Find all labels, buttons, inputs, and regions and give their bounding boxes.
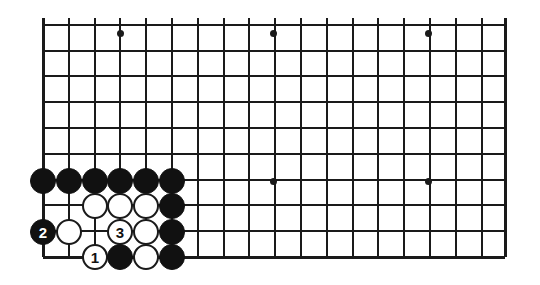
stone-white[interactable] — [56, 219, 82, 245]
stone-black[interactable] — [30, 168, 56, 194]
stone-black[interactable] — [159, 219, 185, 245]
stone-black-move-2[interactable]: 2 — [30, 219, 56, 245]
stone-white-move-1[interactable]: 1 — [82, 244, 108, 270]
stone-black[interactable] — [107, 244, 133, 270]
grid-line-vertical — [223, 18, 225, 257]
stone-white-move-3[interactable]: 3 — [107, 219, 133, 245]
grid-line-vertical — [274, 18, 276, 257]
board-edge-line-vertical — [504, 18, 507, 257]
stone-white[interactable] — [133, 193, 159, 219]
goban-grid: 231 — [0, 0, 540, 285]
stone-white[interactable] — [133, 244, 159, 270]
star-point — [270, 178, 277, 185]
go-board-diagram: 231 — [0, 0, 540, 285]
grid-line-vertical — [403, 18, 405, 257]
move-number-label: 1 — [91, 249, 99, 264]
stone-black[interactable] — [133, 168, 159, 194]
grid-line-vertical — [197, 18, 199, 257]
stone-white[interactable] — [82, 193, 108, 219]
grid-line-vertical — [377, 18, 379, 257]
grid-line-vertical — [429, 18, 431, 257]
move-number-label: 2 — [39, 224, 47, 239]
stone-white[interactable] — [107, 193, 133, 219]
grid-line-vertical — [481, 18, 483, 257]
grid-line-vertical — [94, 18, 96, 257]
grid-line-vertical — [352, 18, 354, 257]
grid-line-vertical — [326, 18, 328, 257]
stone-black[interactable] — [82, 168, 108, 194]
stone-black[interactable] — [159, 244, 185, 270]
grid-line-vertical — [300, 18, 302, 257]
stone-black[interactable] — [107, 168, 133, 194]
stone-black[interactable] — [159, 193, 185, 219]
star-point — [117, 30, 124, 37]
stone-black[interactable] — [159, 168, 185, 194]
grid-line-vertical — [248, 18, 250, 257]
stone-white[interactable] — [133, 219, 159, 245]
star-point — [425, 30, 432, 37]
move-number-label: 3 — [116, 224, 124, 239]
star-point — [270, 30, 277, 37]
stone-black[interactable] — [56, 168, 82, 194]
grid-line-vertical — [455, 18, 457, 257]
star-point — [425, 178, 432, 185]
